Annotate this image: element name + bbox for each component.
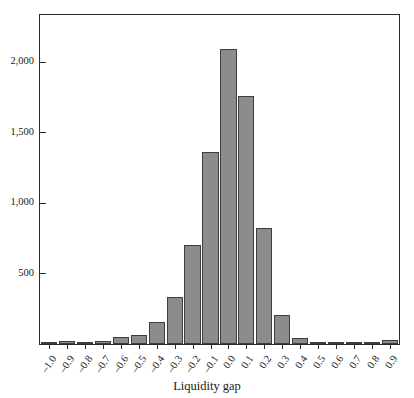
- bar: [167, 297, 183, 344]
- bar: [41, 342, 57, 344]
- x-axis-tick: [282, 345, 283, 349]
- x-axis-tick: [85, 345, 86, 349]
- x-axis-tick: [372, 345, 373, 349]
- bar: [364, 342, 380, 344]
- bar: [328, 342, 344, 344]
- bar: [382, 340, 398, 344]
- bar: [59, 341, 75, 344]
- x-axis-tick: [157, 345, 158, 349]
- bar: [220, 49, 236, 344]
- y-axis-tick-label: 1,000: [0, 197, 34, 208]
- x-axis-tick: [67, 345, 68, 349]
- bar: [95, 341, 111, 344]
- x-axis-tick: [354, 345, 355, 349]
- bar: [184, 245, 200, 344]
- bars-layer: [40, 15, 399, 344]
- x-axis-tick: [139, 345, 140, 349]
- x-axis-title: Liquidity gap: [0, 379, 414, 394]
- x-axis-tick: [211, 345, 212, 349]
- bar: [256, 228, 272, 344]
- y-axis-tick-label: 2,000: [0, 56, 34, 67]
- x-axis-tick: [49, 345, 50, 349]
- x-axis-tick: [336, 345, 337, 349]
- x-axis-tick: [193, 345, 194, 349]
- bar: [274, 315, 290, 344]
- bar: [292, 338, 308, 344]
- x-axis-tick: [264, 345, 265, 349]
- bar: [310, 342, 326, 344]
- x-axis-tick: [175, 345, 176, 349]
- y-axis-tick-label: 500: [0, 268, 34, 279]
- x-axis-tick: [390, 345, 391, 349]
- bar: [149, 322, 165, 344]
- bar: [113, 337, 129, 344]
- x-axis-tick: [228, 345, 229, 349]
- bar: [238, 96, 254, 344]
- histogram-chart: 5001,0001,5002,000 –1.0–0.9–0.8–0.7–0.6–…: [0, 0, 414, 398]
- bar: [202, 152, 218, 344]
- x-axis-tick: [103, 345, 104, 349]
- bar: [131, 335, 147, 344]
- y-axis-tick-label: 1,500: [0, 127, 34, 138]
- x-axis-tick: [246, 345, 247, 349]
- x-axis-tick: [300, 345, 301, 349]
- bar: [346, 342, 362, 344]
- bar: [77, 342, 93, 344]
- x-axis-tick: [318, 345, 319, 349]
- x-axis-tick: [121, 345, 122, 349]
